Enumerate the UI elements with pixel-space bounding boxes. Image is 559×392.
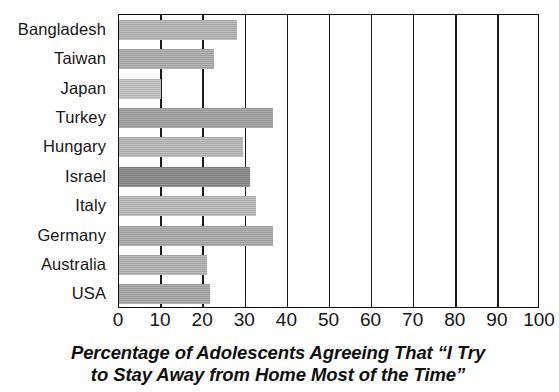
xtick-label-100: 100: [519, 310, 559, 329]
bar-israel: [119, 167, 250, 187]
bar-turkey: [119, 108, 273, 128]
bar-hungary: [119, 137, 243, 157]
xtick-label-30: 30: [224, 310, 264, 329]
xtick-label-80: 80: [435, 310, 475, 329]
bar-italy: [119, 196, 256, 216]
category-label-australia: Australia: [0, 256, 106, 273]
category-label-israel: Israel: [0, 168, 106, 185]
xtick-label-60: 60: [351, 310, 391, 329]
category-axis-labels: BangladeshTaiwanJapanTurkeyHungaryIsrael…: [0, 14, 112, 308]
xtick-label-90: 90: [477, 310, 517, 329]
xtick-label-70: 70: [393, 310, 433, 329]
category-label-taiwan: Taiwan: [0, 50, 106, 67]
xtick-label-0: 0: [98, 310, 138, 329]
xtick-label-50: 50: [309, 310, 349, 329]
category-label-turkey: Turkey: [0, 109, 106, 126]
xtick-label-20: 20: [182, 310, 222, 329]
category-label-germany: Germany: [0, 227, 106, 244]
caption-line-2: to Stay Away from Home Most of the Time”: [8, 364, 548, 386]
bar-germany: [119, 226, 273, 246]
chart-caption: Percentage of Adolescents Agreeing That …: [8, 342, 548, 386]
xtick-label-40: 40: [266, 310, 306, 329]
category-label-bangladesh: Bangladesh: [0, 21, 106, 38]
bar-australia: [119, 255, 207, 275]
category-label-italy: Italy: [0, 197, 106, 214]
xtick-label-10: 10: [140, 310, 180, 329]
bar-usa: [119, 284, 210, 304]
bar-taiwan: [119, 49, 214, 69]
caption-line-1: Percentage of Adolescents Agreeing That …: [8, 342, 548, 364]
plot-area: [118, 14, 539, 308]
bar-bangladesh: [119, 20, 237, 40]
category-label-japan: Japan: [0, 80, 106, 97]
bars-layer: [119, 15, 538, 307]
bar-japan: [119, 79, 161, 99]
category-label-usa: USA: [0, 285, 106, 302]
category-label-hungary: Hungary: [0, 138, 106, 155]
value-axis-tick-labels: 0102030405060708090100: [118, 310, 539, 338]
